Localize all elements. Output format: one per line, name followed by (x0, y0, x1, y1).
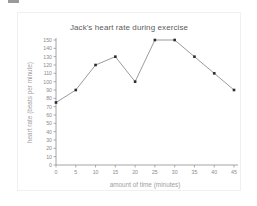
y-axis-title: heart rate (beats per minute) (26, 62, 34, 143)
x-tick-label: 35 (192, 169, 198, 175)
y-tick-label: 40 (46, 129, 52, 135)
heart-rate-data-points (55, 39, 236, 104)
y-tick-label: 0 (49, 162, 52, 168)
x-tick-label: 25 (152, 169, 158, 175)
y-tick-label: 10 (46, 154, 52, 160)
x-axis-title: amount of time (minutes) (110, 181, 181, 189)
data-point-marker (55, 101, 58, 104)
line-chart-plot: 0102030405060708090100110120130140150 05… (18, 13, 242, 192)
x-tick-label: 15 (112, 169, 118, 175)
y-tick-label: 80 (46, 95, 52, 101)
data-point-marker (233, 89, 236, 92)
y-tick-label: 130 (43, 54, 52, 60)
chart-panel: Jack's heart rate during exercise 010203… (17, 12, 241, 191)
y-tick-label: 90 (46, 87, 52, 93)
data-point-marker (94, 64, 97, 67)
y-tick-label: 50 (46, 120, 52, 126)
y-axis-tick-labels: 0102030405060708090100110120130140150 (43, 37, 52, 168)
x-tick-label: 0 (55, 169, 58, 175)
data-point-marker (74, 89, 77, 92)
y-tick-label: 70 (46, 104, 52, 110)
y-tick-label: 100 (43, 79, 52, 85)
x-axis-tick-labels: 051015202530354045 (55, 169, 237, 175)
data-point-marker (114, 55, 117, 58)
y-tick-label: 150 (43, 37, 52, 43)
heart-rate-series-line (56, 40, 234, 103)
x-tick-label: 40 (211, 169, 217, 175)
screenshot-root: Jack's heart rate during exercise 010203… (0, 0, 257, 206)
data-point-marker (173, 39, 176, 42)
y-tick-label: 120 (43, 62, 52, 68)
x-tick-label: 5 (74, 169, 77, 175)
x-tick-label: 45 (231, 169, 237, 175)
top-left-stub (8, 0, 19, 3)
y-tick-label: 110 (44, 70, 52, 76)
data-point-marker (154, 39, 157, 42)
y-tick-label: 20 (46, 145, 52, 151)
y-tick-label: 30 (46, 137, 52, 143)
x-tick-label: 30 (172, 169, 178, 175)
data-point-marker (193, 55, 196, 58)
data-point-marker (134, 80, 137, 83)
y-tick-label: 140 (43, 45, 52, 51)
x-tick-label: 20 (132, 169, 138, 175)
x-tick-label: 10 (93, 169, 99, 175)
y-tick-label: 60 (46, 112, 52, 118)
data-point-marker (213, 72, 216, 75)
